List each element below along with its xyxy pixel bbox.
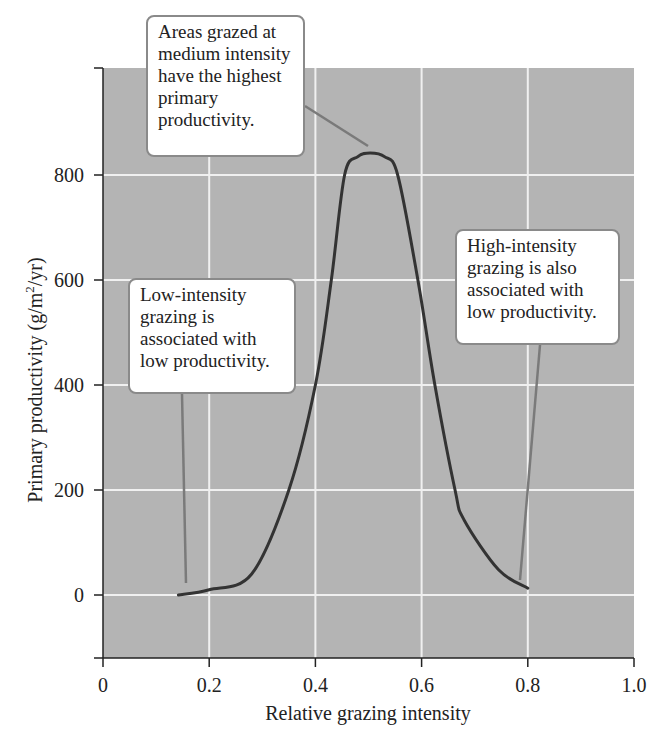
- y-axis-tick-labels: 0200400600800: [54, 164, 84, 606]
- x-tick-label: 0.2: [197, 674, 222, 696]
- y-tick-label: 0: [74, 584, 84, 606]
- callout-peak-line: medium intensity: [158, 43, 295, 65]
- x-tick-label: 0.4: [303, 674, 328, 696]
- y-tick-label: 600: [54, 269, 84, 291]
- callout-low-intensity: Low-intensity grazing is associated with…: [128, 278, 296, 394]
- callout-peak-line: primary: [158, 87, 295, 109]
- callout-low-line: associated with: [140, 328, 286, 350]
- callout-peak-line: Areas grazed at: [158, 21, 295, 43]
- x-tick-label: 0: [98, 674, 108, 696]
- callout-high-line: low productivity.: [467, 301, 610, 323]
- callout-high-line: High-intensity: [467, 235, 610, 257]
- x-axis-tick-labels: 00.20.40.60.81.0: [98, 674, 647, 696]
- x-tick-label: 0.8: [515, 674, 540, 696]
- callout-peak: Areas grazed at medium intensity have th…: [146, 15, 305, 157]
- x-tick-label: 0.6: [409, 674, 434, 696]
- callout-low-line: low productivity.: [140, 350, 286, 372]
- callout-high-intensity: High-intensity grazing is also associate…: [455, 229, 620, 345]
- chart: 00.20.40.60.81.0 0200400600800 Relative …: [0, 0, 670, 739]
- callout-high-line: grazing is also: [467, 257, 610, 279]
- y-axis-label: Primary productivity (g/m2/yr): [22, 257, 47, 502]
- callout-peak-line: have the highest: [158, 65, 295, 87]
- x-axis-label: Relative grazing intensity: [265, 702, 471, 725]
- x-tick-label: 1.0: [622, 674, 647, 696]
- y-tick-label: 200: [54, 479, 84, 501]
- callout-high-line: associated with: [467, 279, 610, 301]
- y-tick-label: 400: [54, 374, 84, 396]
- y-tick-label: 800: [54, 164, 84, 186]
- callout-low-line: Low-intensity: [140, 284, 286, 306]
- callout-low-line: grazing is: [140, 306, 286, 328]
- callout-peak-line: productivity.: [158, 109, 295, 131]
